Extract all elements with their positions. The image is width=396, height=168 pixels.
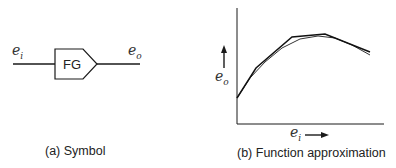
y-axis-label: eo [215,68,229,87]
x-axis-label: ei [290,124,301,143]
symbol-caption: (a) Symbol [45,144,105,158]
block-label: FG [63,57,81,72]
output-label: eo [128,42,142,61]
output-label-sub: o [136,51,141,61]
approximation-caption: (b) Function approximation [237,146,386,160]
y-axis-label-sub: o [223,77,228,87]
y-arrow-head-icon [221,45,227,53]
diagram-canvas [0,0,396,168]
input-label: ei [12,42,23,61]
x-arrow-head-icon [321,132,329,138]
input-label-sub: i [20,51,23,61]
piecewise-linear-approximation [237,34,370,98]
x-axis-label-sub: i [298,133,301,143]
